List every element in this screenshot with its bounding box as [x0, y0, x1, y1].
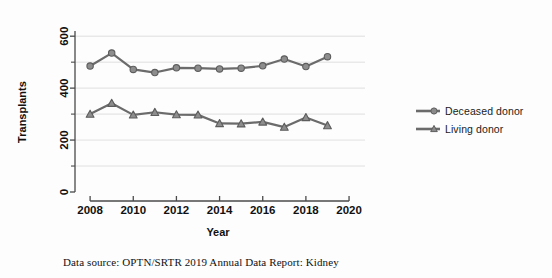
svg-text:2012: 2012	[164, 204, 190, 216]
svg-text:2018: 2018	[293, 204, 319, 216]
line-chart: 0200400600 2008201020122014201620182020 …	[0, 0, 400, 250]
svg-text:0: 0	[58, 189, 70, 195]
chart-plot-area: 0200400600 2008201020122014201620182020 …	[0, 0, 400, 250]
svg-text:2008: 2008	[77, 204, 103, 216]
legend-item-deceased-donor[interactable]: Deceased donor	[415, 103, 550, 119]
y-axis-title: Transplants	[16, 81, 28, 143]
chart-screenshot: 0200400600 2008201020122014201620182020 …	[0, 0, 552, 278]
legend-key-triangle-icon	[415, 122, 441, 136]
y-axis	[70, 31, 75, 192]
x-axis	[90, 196, 349, 201]
legend-item-living-donor[interactable]: Living donor	[415, 121, 550, 137]
series-living-donor	[86, 99, 331, 130]
x-axis-title: Year	[206, 226, 230, 238]
svg-text:2014: 2014	[207, 204, 233, 216]
legend-key-circle-icon	[415, 104, 441, 118]
legend-label-living-donor: Living donor	[441, 123, 503, 135]
y-tick-labels: 0200400600	[58, 27, 70, 196]
x-tick-labels: 2008201020122014201620182020	[77, 204, 362, 216]
svg-text:600: 600	[58, 27, 70, 46]
grid-lines	[75, 36, 365, 166]
legend-label-deceased-donor: Deceased donor	[441, 105, 523, 117]
data-source-caption: Data source: OPTN/SRTR 2019 Annual Data …	[63, 256, 339, 268]
svg-text:200: 200	[58, 130, 70, 149]
svg-text:2010: 2010	[120, 204, 146, 216]
chart-legend: Deceased donor Living donor	[415, 103, 550, 139]
series-deceased-donor	[87, 50, 331, 76]
svg-text:2020: 2020	[336, 204, 362, 216]
svg-text:2016: 2016	[250, 204, 276, 216]
svg-text:400: 400	[58, 79, 70, 98]
